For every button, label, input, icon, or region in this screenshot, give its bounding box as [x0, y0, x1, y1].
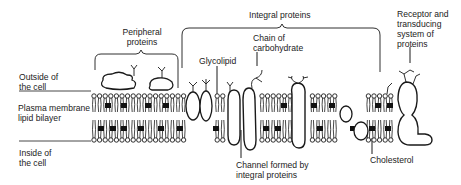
carb-chain-channel: [252, 70, 263, 88]
carb-oval-2: [202, 79, 210, 91]
integral-protein-small-2: [354, 122, 368, 140]
integral-protein-small-1: [340, 106, 352, 122]
receptor-protein: [398, 82, 432, 145]
integral-protein-tall: [292, 83, 306, 148]
carb-peripheral-1: [131, 65, 137, 76]
carb-oval-1: [189, 82, 197, 92]
integral-protein-oval-1: [186, 92, 200, 120]
integral-bracket: [182, 24, 380, 72]
carb-peripheral-2: [158, 67, 165, 78]
integral-protein-oval-2: [200, 91, 212, 121]
channel-protein-1: [228, 90, 240, 145]
channel-protein-2: [243, 88, 256, 150]
peripheral-protein-2: [149, 78, 173, 90]
carb-tall: [288, 76, 308, 83]
carb-receptor-side: [387, 83, 392, 94]
membrane-diagram: [0, 0, 461, 185]
peripheral-protein-1: [102, 72, 136, 89]
